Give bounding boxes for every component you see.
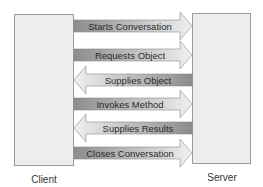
arrow-label: Starts Conversation xyxy=(88,21,171,32)
server-label: Server xyxy=(192,172,252,183)
arrow-label: Supplies Object xyxy=(105,75,172,86)
client-label: Client xyxy=(14,174,74,185)
arrow-label: Requests Object xyxy=(95,50,166,61)
arrow-label: Closes Conversation xyxy=(86,148,174,159)
arrow-label: Invokes Method xyxy=(96,99,163,110)
arrow-invokes-method: Invokes Method xyxy=(74,90,192,118)
arrow-supplies-object: Supplies Object xyxy=(74,66,192,94)
arrow-starts-conversation: Starts Conversation xyxy=(74,12,192,40)
arrow-requests-object: Requests Object xyxy=(74,41,192,69)
arrow-supplies-results: Supplies Results xyxy=(74,114,192,142)
arrow-label: Supplies Results xyxy=(103,123,174,134)
arrow-closes-conversation: Closes Conversation xyxy=(74,139,192,167)
message-arrows: Starts Conversation Requests Object Supp… xyxy=(0,0,263,187)
